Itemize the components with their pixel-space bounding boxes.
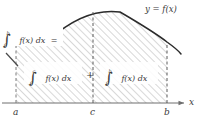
curve-label: y = f(x) bbox=[145, 5, 177, 14]
figure-canvas bbox=[0, 0, 199, 124]
integral-upper-limit: b bbox=[7, 31, 10, 36]
plus-operator: + bbox=[86, 70, 94, 80]
right-region-integral-label: ∫bc f(x) dx bbox=[105, 68, 147, 84]
integrand: f(x) dx bbox=[121, 74, 147, 83]
equals-sign: = bbox=[51, 36, 58, 45]
integral-upper-limit: b bbox=[109, 69, 112, 74]
integrand: f(x) dx bbox=[19, 36, 45, 45]
integral-lower-limit: a bbox=[30, 80, 33, 85]
x-axis-label: x bbox=[189, 98, 194, 107]
integral-lower-limit: a bbox=[4, 42, 7, 47]
x-tick-label-c: c bbox=[90, 108, 95, 117]
x-tick-label-b: b bbox=[164, 108, 170, 117]
x-tick-label-a: a bbox=[13, 108, 18, 117]
integrand: f(x) dx bbox=[45, 74, 71, 83]
outer-integral-label: ∫ba f(x) dx = bbox=[3, 30, 58, 46]
integral-upper-limit: c bbox=[33, 69, 36, 74]
left-region-integral-label: ∫ca f(x) dx bbox=[29, 68, 71, 84]
integral-lower-limit: c bbox=[106, 80, 109, 85]
integral-additivity-figure: ∫ba f(x) dx = ∫ca f(x) dx + ∫bc f(x) dx … bbox=[0, 0, 199, 124]
